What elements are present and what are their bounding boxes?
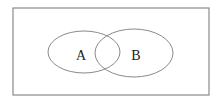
set-a-label: A: [76, 48, 87, 63]
venn-diagram: A B: [0, 0, 220, 102]
universe-rectangle: [13, 8, 209, 95]
set-b-label: B: [131, 48, 140, 63]
